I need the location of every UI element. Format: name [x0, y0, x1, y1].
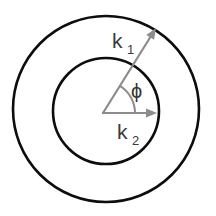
inner-circle [53, 58, 159, 164]
diagram-canvas: k 1 k 2 ϕ [0, 0, 216, 216]
phi-angle-label: ϕ [131, 80, 142, 102]
k1-label-subscript: 1 [127, 42, 134, 57]
k2-arrowhead-icon [146, 108, 157, 117]
k1-label: k [112, 29, 123, 52]
k2-label-subscript: 2 [132, 133, 139, 148]
k1-arrowhead-icon [146, 28, 156, 40]
vector-diagram-svg: k 1 k 2 ϕ [0, 0, 216, 216]
k2-label: k [117, 120, 128, 143]
